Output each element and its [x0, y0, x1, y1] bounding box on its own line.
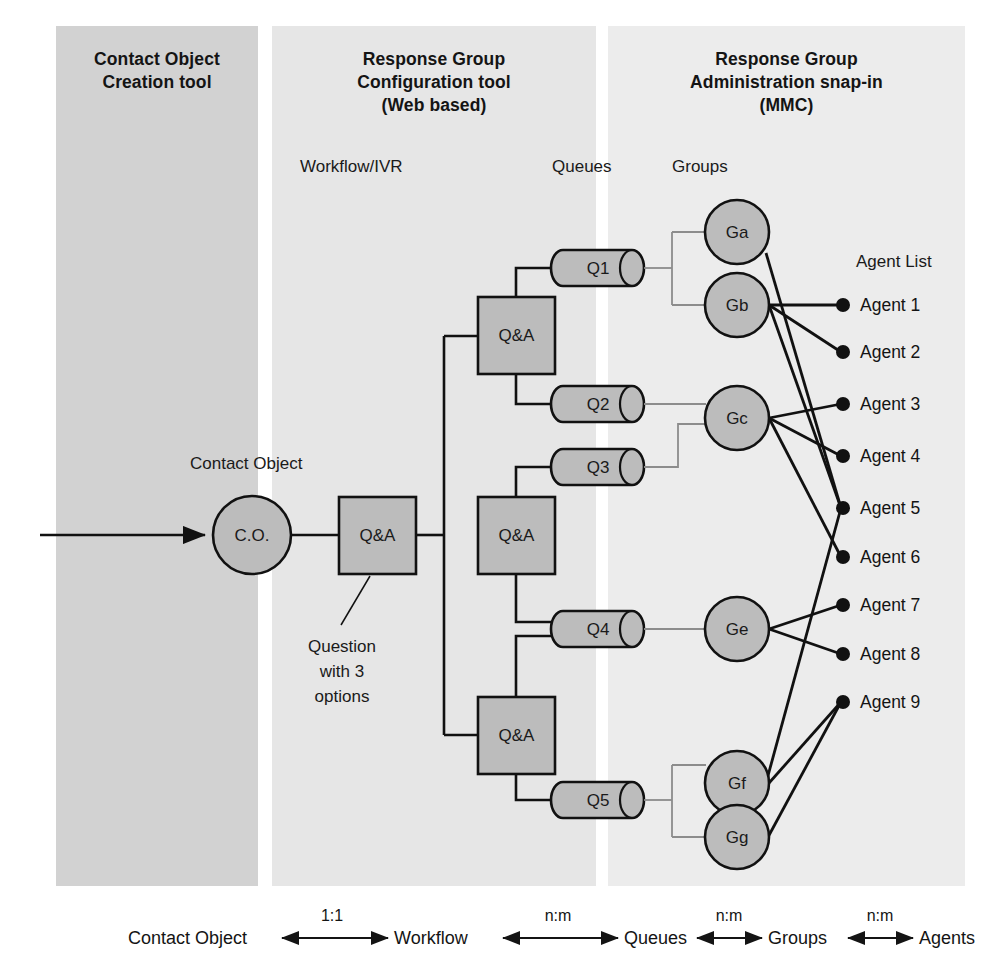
agent-label-6: Agent 6	[860, 547, 920, 568]
rel-entity-agents: Agents	[919, 928, 975, 949]
link-branch3-to-q5	[516, 774, 552, 800]
agent-label-4: Agent 4	[860, 446, 920, 467]
agent-label-1: Agent 1	[860, 295, 920, 316]
agent-label-3: Agent 3	[860, 394, 920, 415]
diagram-canvas: Contact Object Creation tool Response Gr…	[0, 0, 988, 969]
node-queue-q5[interactable]	[551, 782, 644, 818]
link-branch2-to-q3	[516, 467, 552, 497]
node-queue-q3[interactable]	[551, 449, 644, 485]
agent-dot-9[interactable]	[836, 695, 850, 709]
agent-label-7: Agent 7	[860, 595, 920, 616]
agent-dot-7[interactable]	[836, 598, 850, 612]
link-gf-agent5	[766, 508, 841, 783]
agent-label-9: Agent 9	[860, 692, 920, 713]
link-branch2-to-q4	[516, 574, 552, 622]
link-gc-agent6	[769, 418, 841, 557]
node-queue-q1[interactable]	[551, 250, 644, 286]
node-workflow-root-qa[interactable]	[339, 497, 416, 574]
link-branch1-to-q1	[516, 268, 552, 297]
node-queue-q4[interactable]	[551, 611, 644, 647]
rel-cardinality-3: n:m	[716, 907, 743, 925]
agent-dot-1[interactable]	[836, 298, 850, 312]
rel-cardinality-4: n:m	[867, 907, 894, 925]
agent-dot-4[interactable]	[836, 449, 850, 463]
link-ga-agent5	[766, 253, 841, 508]
node-group-ge[interactable]	[705, 597, 769, 661]
link-q3-to-gc	[644, 424, 706, 467]
node-group-gb[interactable]	[705, 273, 769, 337]
node-workflow-branch-qa-2[interactable]	[478, 497, 555, 574]
rel-cardinality-2: n:m	[545, 907, 572, 925]
relationship-legend: Contact Object Workflow Queues Groups Ag…	[0, 905, 988, 961]
callout-leader-line	[341, 576, 370, 625]
node-group-gc[interactable]	[705, 386, 769, 450]
agent-dot-6[interactable]	[836, 550, 850, 564]
node-contact-object[interactable]	[213, 496, 291, 574]
agent-label-8: Agent 8	[860, 644, 920, 665]
agent-dot-8[interactable]	[836, 647, 850, 661]
link-gg-agent9	[760, 702, 841, 852]
link-gb-agent2	[769, 305, 841, 352]
rel-entity-contact-object: Contact Object	[128, 928, 247, 949]
link-branch1-to-q2	[516, 374, 552, 404]
node-group-gg[interactable]	[705, 805, 769, 869]
link-ge-agent7	[769, 605, 841, 629]
node-queue-q2[interactable]	[551, 386, 644, 422]
node-workflow-branch-qa-3[interactable]	[478, 697, 555, 774]
callout-note-question-options: Question with 3 options	[286, 634, 398, 709]
agent-dot-2[interactable]	[836, 345, 850, 359]
diagram-vector-layer	[0, 0, 988, 969]
link-branch3-to-q4	[516, 636, 552, 697]
rel-entity-queues: Queues	[624, 928, 687, 949]
rel-cardinality-1: 1:1	[321, 907, 343, 925]
agent-dot-3[interactable]	[836, 397, 850, 411]
node-workflow-branch-qa-1[interactable]	[478, 297, 555, 374]
agent-label-2: Agent 2	[860, 342, 920, 363]
rel-entity-groups: Groups	[768, 928, 827, 949]
agent-dot-5[interactable]	[836, 501, 850, 515]
agent-label-5: Agent 5	[860, 498, 920, 519]
rel-entity-workflow: Workflow	[394, 928, 468, 949]
node-group-ga[interactable]	[705, 200, 769, 264]
